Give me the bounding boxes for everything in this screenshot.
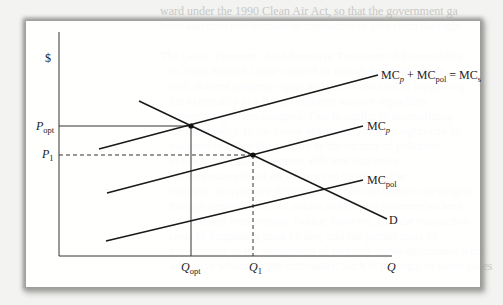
mc-social-curve [99,75,378,149]
optimum-point [188,123,193,128]
externality-diagram: $ Q Popt P1 Qopt Q1 MCp + MCpol = MCs MC… [0,0,503,305]
mc-social-label: MCp + MCpol = MCs [381,68,481,84]
mc-private-label: MCp [367,119,390,135]
q-opt-label: Qopt [181,260,201,276]
y-axis-label: $ [45,51,51,65]
demand-curve [139,101,387,219]
demand-label: D [389,213,398,227]
x-axis-label: Q [387,260,396,274]
mc-pollution-label: MCpol [367,173,397,189]
p-opt-label: Popt [35,119,55,135]
p1-label: P1 [41,147,54,163]
textbook-page: ward under the 1990 Clean Air Act, so th… [0,0,503,305]
market-equilibrium-point [250,152,255,157]
q1-label: Q1 [249,260,262,276]
